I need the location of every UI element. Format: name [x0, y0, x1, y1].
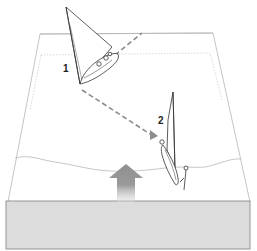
position-label-2: 2 — [158, 116, 164, 126]
wave-arrow-icon — [109, 164, 143, 202]
capsize-diagram: 1 2 — [0, 0, 257, 251]
trajectory-arrowhead-icon — [150, 130, 158, 140]
boat-2 — [160, 92, 188, 190]
boat-1 — [66, 7, 119, 84]
far-edge-dotted — [30, 53, 222, 110]
position-label-1: 1 — [63, 64, 69, 74]
water-block-front — [6, 201, 250, 249]
